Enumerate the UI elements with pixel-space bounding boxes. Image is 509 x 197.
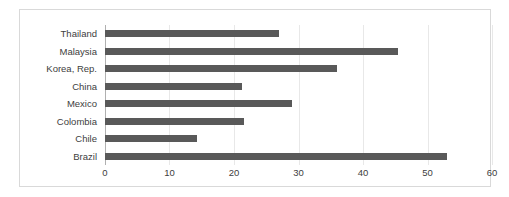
category-label: China xyxy=(20,78,101,96)
category-label: Colombia xyxy=(20,113,101,131)
bar xyxy=(105,135,197,142)
value-tick-label: 40 xyxy=(358,167,369,178)
bar xyxy=(105,118,244,125)
bar-series xyxy=(105,25,492,165)
bar-row xyxy=(105,95,492,113)
value-tick-label: 0 xyxy=(102,167,107,178)
value-tick-label: 10 xyxy=(164,167,175,178)
value-tick-label: 60 xyxy=(487,167,498,178)
value-tick-label: 20 xyxy=(229,167,240,178)
bar-row xyxy=(105,130,492,148)
bar xyxy=(105,30,279,37)
bar-row xyxy=(105,78,492,96)
bar-row xyxy=(105,43,492,61)
chart-plot-frame: ThailandMalaysiaKorea, Rep.ChinaMexicoCo… xyxy=(19,9,491,187)
bar xyxy=(105,83,242,90)
bar-row xyxy=(105,148,492,166)
plot-area xyxy=(105,25,492,165)
category-label: Thailand xyxy=(20,25,101,43)
bar xyxy=(105,153,447,160)
category-label: Chile xyxy=(20,130,101,148)
category-label: Mexico xyxy=(20,95,101,113)
value-tick-label: 30 xyxy=(293,167,304,178)
category-label: Korea, Rep. xyxy=(20,60,101,78)
bar-row xyxy=(105,60,492,78)
bar xyxy=(105,48,398,55)
bar xyxy=(105,100,292,107)
category-label: Malaysia xyxy=(20,43,101,61)
bar-row xyxy=(105,25,492,43)
bar-row xyxy=(105,113,492,131)
category-axis-labels: ThailandMalaysiaKorea, Rep.ChinaMexicoCo… xyxy=(20,25,101,165)
bar-chart: ThailandMalaysiaKorea, Rep.ChinaMexicoCo… xyxy=(0,0,509,197)
gridline xyxy=(492,25,493,165)
category-label: Brazil xyxy=(20,148,101,166)
value-axis-tick-labels: 0102030405060 xyxy=(105,167,492,183)
bar xyxy=(105,65,337,72)
value-tick-label: 50 xyxy=(422,167,433,178)
